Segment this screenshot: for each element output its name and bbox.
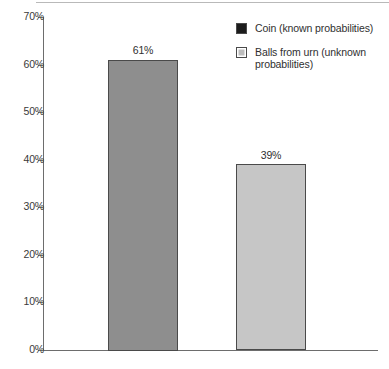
page-rule-decoration: [36, 2, 389, 3]
bar-value-label-balls-from-urn: 39%: [236, 149, 306, 161]
x-axis-baseline: [43, 350, 378, 351]
legend-label-balls-from-urn: Balls from urn (unknown probabilities): [255, 46, 389, 71]
bar-coin[interactable]: [108, 60, 178, 351]
bar-balls-from-urn[interactable]: [236, 164, 306, 350]
legend-item-balls-from-urn[interactable]: Balls from urn (unknown probabilities): [236, 46, 389, 71]
dark-square-swatch-icon: [236, 23, 247, 34]
legend-label-coin: Coin (known probabilities): [255, 22, 373, 35]
bar-value-label-coin: 61%: [108, 44, 178, 56]
y-tick-label: 60%: [10, 58, 44, 70]
legend-item-coin[interactable]: Coin (known probabilities): [236, 22, 389, 35]
y-tick-label: 70%: [10, 10, 44, 22]
y-tick-label: 20%: [10, 248, 44, 260]
y-tick-label: 10%: [10, 295, 44, 307]
light-square-swatch-icon: [236, 47, 247, 58]
y-tick-label: 50%: [10, 105, 44, 117]
y-tick-label: 30%: [10, 200, 44, 212]
y-tick-label: 0%: [10, 343, 44, 355]
y-tick-label: 40%: [10, 153, 44, 165]
bar-chart: 70% 60% 50% 40% 30% 20% 10% 0% 61% 39% C…: [0, 0, 389, 369]
chart-legend: Coin (known probabilities) Balls from ur…: [236, 22, 389, 82]
